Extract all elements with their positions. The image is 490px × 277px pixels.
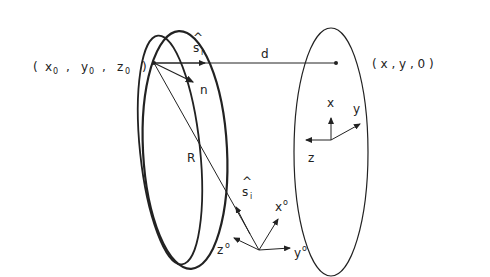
s-i-arrow	[236, 207, 250, 234]
z-axis-label: z	[308, 151, 314, 165]
svg-text:o: o	[302, 244, 307, 253]
svg-text:0: 0	[89, 67, 94, 76]
svg-text:s: s	[242, 185, 248, 199]
observation-plane-ellipse	[294, 28, 368, 276]
x0-axis-arrow	[259, 219, 278, 250]
z0-axis-label: z o	[217, 241, 230, 257]
diagram-canvas: ( x 0 , y 0 , z 0 ) ( x , y , 0 ) d n R …	[0, 0, 490, 277]
svg-text:z: z	[117, 60, 123, 74]
y0-axis-label: y o	[294, 244, 307, 260]
surface-outer-ellipse	[137, 29, 233, 271]
x-axis-label: x	[327, 96, 334, 110]
svg-text:o: o	[225, 241, 230, 250]
incident-axes	[234, 219, 290, 250]
observation-axes	[306, 118, 360, 140]
y0-axis-arrow	[259, 248, 290, 250]
svg-text:y: y	[81, 60, 88, 74]
x0-axis-label: x o	[275, 198, 288, 214]
svg-text:x: x	[275, 200, 282, 214]
svg-text:0: 0	[53, 67, 58, 76]
svg-text:(: (	[33, 60, 38, 74]
svg-text:,: ,	[66, 60, 70, 74]
s-i-label: ^ s i	[242, 175, 252, 201]
svg-text:0: 0	[125, 67, 130, 76]
y-axis-arrow	[331, 124, 360, 140]
normal-label: n	[200, 83, 208, 97]
target-point-label: ( x , y , 0 )	[372, 57, 434, 71]
svg-text:o: o	[283, 198, 288, 207]
s-r-label: ^ s r	[193, 31, 205, 57]
surface-inner-ellipse	[128, 32, 212, 267]
y-axis-label: y	[353, 102, 360, 116]
svg-text:,: ,	[102, 60, 106, 74]
svg-text:s: s	[193, 41, 199, 55]
distance-label: d	[261, 47, 269, 61]
svg-text:y: y	[294, 246, 301, 260]
svg-text:x: x	[45, 60, 52, 74]
radius-label: R	[187, 151, 195, 165]
svg-text:z: z	[217, 243, 223, 257]
svg-text:i: i	[250, 192, 252, 201]
svg-text:): )	[142, 60, 147, 74]
source-point-label: ( x 0 , y 0 , z 0 )	[33, 60, 147, 76]
